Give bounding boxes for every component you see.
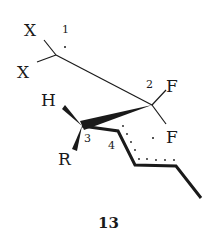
structure-drawing: X X H R F F 1 2 3 4 13 xyxy=(0,0,212,237)
chemical-structure-diagram: X X H R F F 1 2 3 4 13 xyxy=(0,0,212,237)
radical-dot-c1 xyxy=(64,46,66,48)
bond-x-top-c1 xyxy=(44,40,56,55)
position-number-3: 3 xyxy=(84,132,91,145)
atom-f-top: F xyxy=(166,76,178,96)
atom-x-top: X xyxy=(24,20,37,40)
bond-x-bottom-c1 xyxy=(37,55,56,62)
wedge-bond-c3-r xyxy=(72,126,82,151)
position-number-4: 4 xyxy=(108,139,115,152)
atom-f-bottom: F xyxy=(166,127,178,147)
position-number-1: 1 xyxy=(62,23,69,36)
wedge-bond-c3-h xyxy=(62,105,82,126)
compound-label: 13 xyxy=(98,214,119,232)
atom-x-bottom: X xyxy=(17,62,30,82)
bond-c1-c2 xyxy=(56,55,152,105)
bond-c2-f-bottom xyxy=(152,105,166,124)
atom-h: H xyxy=(41,90,56,110)
lone-radical-dot xyxy=(152,137,154,139)
bold-chain-c3-c4-c5-c6-c7 xyxy=(82,126,201,198)
atom-r: R xyxy=(58,149,72,169)
bond-c2-f-top xyxy=(152,90,166,105)
position-number-2: 2 xyxy=(146,78,153,91)
